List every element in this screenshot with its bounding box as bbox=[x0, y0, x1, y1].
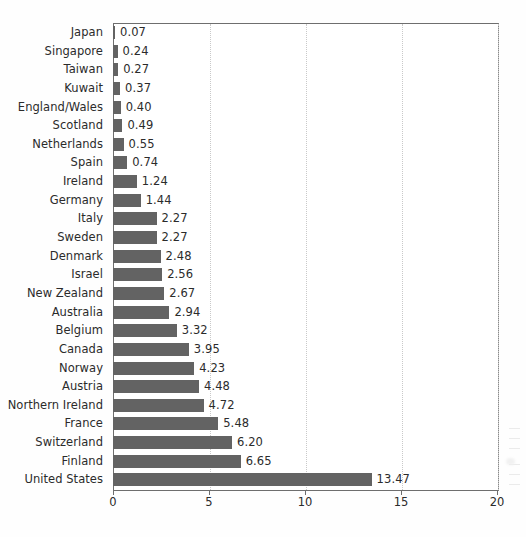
bar-row: 1.44 bbox=[113, 191, 497, 210]
bar bbox=[113, 156, 127, 169]
category-label: Spain bbox=[0, 153, 108, 172]
category-label: Finland bbox=[0, 452, 108, 471]
bar-value-label: 0.55 bbox=[129, 136, 155, 153]
category-label: Netherlands bbox=[0, 135, 108, 154]
category-label: Australia bbox=[0, 303, 108, 322]
category-label: Belgium bbox=[0, 321, 108, 340]
bar bbox=[113, 63, 118, 76]
category-label: Sweden bbox=[0, 228, 108, 247]
bar-row: 2.56 bbox=[113, 265, 497, 284]
bar-value-label: 0.40 bbox=[126, 99, 152, 116]
bar bbox=[113, 455, 241, 468]
bar-row: 0.49 bbox=[113, 116, 497, 135]
category-label: Taiwan bbox=[0, 60, 108, 79]
bar-row: 0.27 bbox=[113, 60, 497, 79]
x-axis-tick-label: 15 bbox=[394, 494, 409, 510]
bar-value-label: 0.07 bbox=[120, 24, 146, 41]
bar-value-label: 0.74 bbox=[132, 154, 158, 171]
bar-value-label: 1.44 bbox=[146, 192, 172, 209]
bar-value-label: 5.48 bbox=[223, 415, 249, 432]
bar bbox=[113, 399, 204, 412]
bar-row: 2.48 bbox=[113, 247, 497, 266]
bar bbox=[113, 306, 169, 319]
bar-row: 0.07 bbox=[113, 23, 497, 42]
bar-row: 6.65 bbox=[113, 452, 497, 471]
bar-row: 13.47 bbox=[113, 470, 497, 489]
bar-value-label: 2.67 bbox=[169, 285, 195, 302]
category-label: Northern Ireland bbox=[0, 396, 108, 415]
bar bbox=[113, 194, 141, 207]
category-label: Singapore bbox=[0, 42, 108, 61]
bar-row: 0.40 bbox=[113, 98, 497, 117]
category-label: New Zealand bbox=[0, 284, 108, 303]
bar-row: 4.72 bbox=[113, 396, 497, 415]
bar-row: 5.48 bbox=[113, 414, 497, 433]
bar-value-label: 6.65 bbox=[246, 453, 272, 470]
bar bbox=[113, 436, 232, 449]
bar-row: 3.95 bbox=[113, 340, 497, 359]
bar bbox=[113, 231, 157, 244]
x-axis-tick-label: 10 bbox=[298, 494, 313, 510]
bar bbox=[113, 175, 137, 188]
bar-value-label: 2.48 bbox=[166, 248, 192, 265]
category-axis-labels: JapanSingaporeTaiwanKuwaitEngland/WalesS… bbox=[0, 23, 108, 489]
bar bbox=[113, 101, 121, 114]
bar-value-label: 2.94 bbox=[174, 304, 200, 321]
bar bbox=[113, 212, 157, 225]
category-label: Norway bbox=[0, 359, 108, 378]
bar bbox=[113, 138, 124, 151]
bar-row: 0.55 bbox=[113, 135, 497, 154]
bar-value-label: 4.23 bbox=[199, 360, 225, 377]
gridline bbox=[498, 24, 499, 490]
bar-row: 4.23 bbox=[113, 359, 497, 378]
bar-row: 2.67 bbox=[113, 284, 497, 303]
bar-value-label: 2.27 bbox=[162, 229, 188, 246]
bar-value-label: 1.24 bbox=[142, 173, 168, 190]
bar-row: 0.74 bbox=[113, 153, 497, 172]
x-axis-tick-label: 5 bbox=[205, 494, 212, 510]
bar-value-label: 0.27 bbox=[123, 61, 149, 78]
category-label: Canada bbox=[0, 340, 108, 359]
category-label: United States bbox=[0, 470, 108, 489]
bar-value-label: 4.48 bbox=[204, 378, 230, 395]
category-label: Germany bbox=[0, 191, 108, 210]
bar-value-label: 2.27 bbox=[162, 210, 188, 227]
bar bbox=[113, 417, 218, 430]
scan-bleed-artifact bbox=[506, 424, 524, 494]
category-label: Israel bbox=[0, 265, 108, 284]
bar-row: 2.27 bbox=[113, 209, 497, 228]
bar-row: 1.24 bbox=[113, 172, 497, 191]
bar bbox=[113, 250, 161, 263]
category-label: Austria bbox=[0, 377, 108, 396]
bar bbox=[113, 268, 162, 281]
bar bbox=[113, 343, 189, 356]
bar-row: 0.24 bbox=[113, 42, 497, 61]
category-label: France bbox=[0, 414, 108, 433]
x-axis-tick-label: 20 bbox=[490, 494, 505, 510]
bar-chart: JapanSingaporeTaiwanKuwaitEngland/WalesS… bbox=[0, 0, 526, 537]
bar bbox=[113, 26, 115, 39]
bar-value-label: 0.24 bbox=[123, 43, 149, 60]
category-label: Scotland bbox=[0, 116, 108, 135]
bar-value-label: 13.47 bbox=[377, 471, 410, 488]
bar bbox=[113, 380, 199, 393]
bar bbox=[113, 45, 118, 58]
bar-row: 4.48 bbox=[113, 377, 497, 396]
bar-value-label: 0.37 bbox=[125, 80, 151, 97]
category-label: Switzerland bbox=[0, 433, 108, 452]
bar-row: 2.27 bbox=[113, 228, 497, 247]
bar-value-label: 6.20 bbox=[237, 434, 263, 451]
bar-value-label: 0.49 bbox=[127, 117, 153, 134]
bar-value-label: 3.32 bbox=[182, 322, 208, 339]
bar bbox=[113, 473, 372, 486]
bar bbox=[113, 287, 164, 300]
bar bbox=[113, 119, 122, 132]
bar bbox=[113, 324, 177, 337]
bar-value-label: 2.56 bbox=[167, 266, 193, 283]
x-axis-tick-label: 0 bbox=[109, 494, 116, 510]
x-axis-tick-labels: 05101520 bbox=[113, 494, 497, 512]
category-label: Ireland bbox=[0, 172, 108, 191]
category-label: England/Wales bbox=[0, 98, 108, 117]
bar-value-label: 3.95 bbox=[194, 341, 220, 358]
bar bbox=[113, 362, 194, 375]
